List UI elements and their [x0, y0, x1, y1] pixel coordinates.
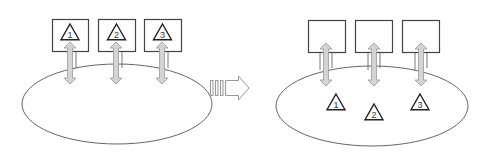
before-state: 123	[22, 20, 212, 145]
triangle-label: 2	[114, 30, 119, 40]
triangle-label: 1	[67, 30, 72, 40]
triangle-label: 1	[333, 100, 338, 110]
bidirectional-arrow-icon	[110, 42, 122, 84]
warning-triangle-icon: 3	[411, 94, 429, 110]
warning-triangle-icon: 2	[365, 104, 383, 120]
diagram-canvas: 123 123	[0, 0, 484, 154]
triangle-label: 2	[371, 110, 376, 120]
triangle-label: 3	[417, 100, 422, 110]
bidirectional-arrow-icon	[156, 42, 168, 84]
triangle-label: 3	[160, 30, 165, 40]
right-arrow-icon	[211, 76, 250, 100]
transition-arrow	[211, 76, 250, 100]
after-state: 123	[276, 21, 468, 147]
warning-triangle-icon: 1	[327, 94, 345, 110]
bidirectional-arrow-icon	[64, 42, 76, 84]
